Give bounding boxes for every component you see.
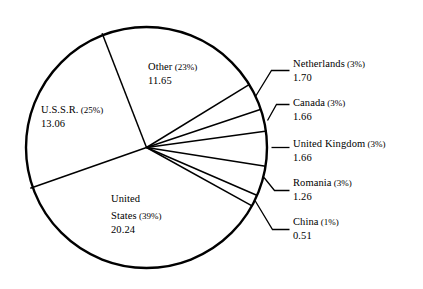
leader-line-netherlands xyxy=(256,71,290,97)
slice-value-other: 11.65 xyxy=(148,75,197,87)
leader-line-canada xyxy=(268,105,290,121)
callout-name-romania: Romania xyxy=(293,177,332,188)
callout-name-china: China xyxy=(293,216,319,227)
callout-label-canada: Canada (3%) 1.66 xyxy=(293,92,345,123)
leader-line-china xyxy=(255,201,290,230)
callout-name-united-kingdom: United Kingdom xyxy=(293,138,365,149)
callout-value-china: 0.51 xyxy=(293,230,339,242)
callout-name-canada: Canada xyxy=(293,97,325,108)
slice-percent-ussr: (25%) xyxy=(79,105,104,115)
callout-value-united-kingdom: 1.66 xyxy=(293,152,386,164)
callout-percent-china: (1%) xyxy=(319,217,339,227)
slice-percent-united-states: (39%) xyxy=(137,211,162,221)
slice-value-ussr: 13.06 xyxy=(41,118,103,130)
callout-label-united-kingdom: United Kingdom (3%) 1.66 xyxy=(293,133,386,164)
slice-percent-other: (23%) xyxy=(172,62,197,72)
slice-name-united-states-line2: States xyxy=(111,210,137,221)
callout-value-netherlands: 1.70 xyxy=(293,72,365,84)
callout-percent-united-kingdom: (3%) xyxy=(365,139,385,149)
slice-name-united-states-line1: United xyxy=(111,193,161,205)
callout-label-romania: Romania (3%) 1.26 xyxy=(293,172,352,203)
callout-percent-netherlands: (3%) xyxy=(345,59,365,69)
callout-value-canada: 1.66 xyxy=(293,111,345,123)
slice-label-ussr: U.S.S.R. (25%) 13.06 xyxy=(41,99,103,130)
slice-label-other: Other (23%) 11.65 xyxy=(148,56,197,87)
callout-china-title: China (1%) xyxy=(293,211,339,230)
slice-value-united-states: 20.24 xyxy=(111,224,161,236)
callout-name-netherlands: Netherlands xyxy=(293,58,345,69)
callout-percent-canada: (3%) xyxy=(325,98,345,108)
pie-chart: Other (23%) 11.65 U.S.S.R. (25%) 13.06 U… xyxy=(0,0,423,289)
leader-line-romania xyxy=(264,178,290,191)
slice-label-other-title: Other (23%) xyxy=(148,56,197,75)
callout-label-netherlands: Netherlands (3%) 1.70 xyxy=(293,53,365,84)
slice-name-ussr: U.S.S.R. xyxy=(41,104,79,115)
callout-canada-title: Canada (3%) xyxy=(293,92,345,111)
callout-percent-romania: (3%) xyxy=(332,178,352,188)
callout-united-kingdom-title: United Kingdom (3%) xyxy=(293,133,386,152)
callout-netherlands-title: Netherlands (3%) xyxy=(293,53,365,72)
slice-label-ussr-title: U.S.S.R. (25%) xyxy=(41,99,103,118)
callout-label-china: China (1%) 0.51 xyxy=(293,211,339,242)
callout-value-romania: 1.26 xyxy=(293,191,352,203)
slice-label-united-states: United States (39%) 20.24 xyxy=(111,193,161,237)
slice-label-united-states-line2: States (39%) xyxy=(111,205,161,224)
callout-romania-title: Romania (3%) xyxy=(293,172,352,191)
slice-name-other: Other xyxy=(148,61,172,72)
